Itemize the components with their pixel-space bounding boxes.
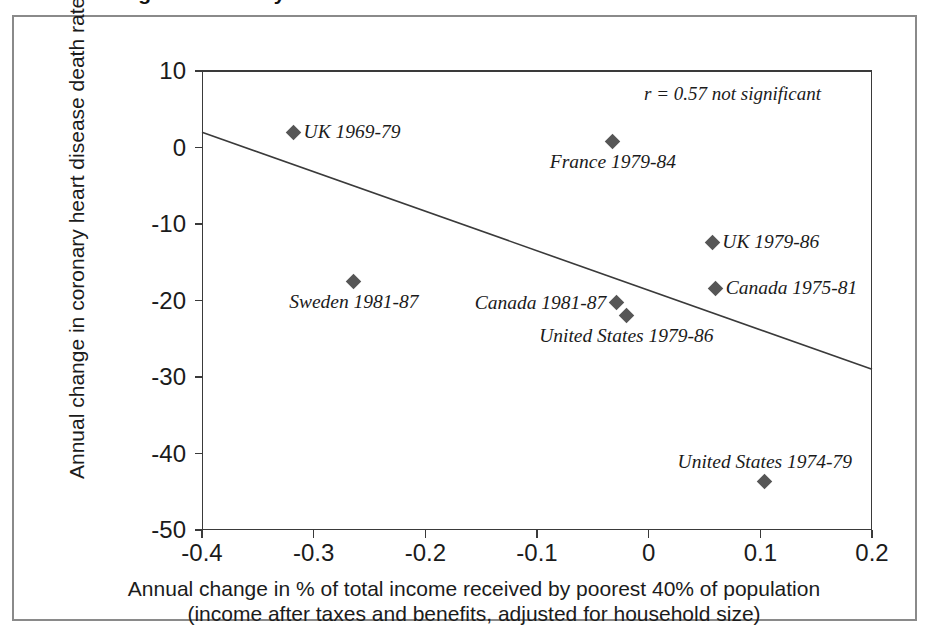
- trendline-svg: [14, 17, 919, 623]
- data-point-label: France 1979-84: [550, 152, 676, 172]
- x-axis-title-line2: (income after taxes and benefits, adjust…: [54, 602, 894, 627]
- data-point-label: Canada 1975-81: [726, 279, 858, 299]
- cut-off-title: Annual change in coronary heart disease: [0, 0, 930, 14]
- figure-scatter-chart: Annual change in coronary heart disease …: [0, 0, 930, 639]
- data-point-label: UK 1969-79: [304, 122, 401, 142]
- correlation-annotation: r = 0.57 not significant: [644, 83, 821, 105]
- x-axis-title: Annual change in % of total income recei…: [54, 577, 894, 627]
- x-axis-title-line1: Annual change in % of total income recei…: [54, 577, 894, 602]
- figure-frame: 100-10-20-30-40-50 -0.4-0.3-0.2-0.100.10…: [12, 15, 917, 621]
- data-point-label: Sweden 1981-87: [289, 292, 418, 312]
- data-point-label: United States 1974-79: [678, 452, 852, 472]
- data-point-label: Canada 1981-87: [475, 293, 607, 313]
- y-axis-title: Annual change in coronary heart disease …: [65, 9, 89, 479]
- data-point-label: United States 1979-86: [539, 326, 713, 346]
- data-point-label: UK 1979-86: [722, 233, 819, 253]
